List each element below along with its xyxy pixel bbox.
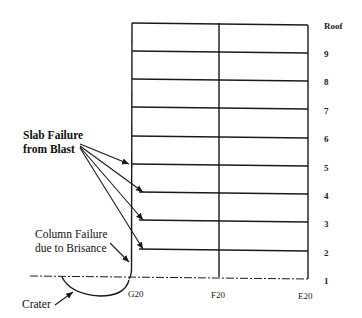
slab-3 — [139, 220, 308, 222]
floor-label-7: 7 — [324, 106, 329, 116]
slab-4 — [139, 192, 308, 194]
slab-failure-label: Slab Failure from Blast — [23, 128, 83, 156]
crater-arrow — [55, 292, 73, 305]
crater-label: Crater — [22, 297, 51, 311]
slab-9 — [132, 51, 308, 53]
column-label-g20: G20 — [128, 289, 144, 299]
column-failure-line2: due to Brisance — [35, 241, 108, 255]
column-failure-arrow — [110, 243, 129, 262]
slab-failure-line2: from Blast — [23, 142, 83, 156]
column-g20-failed-end — [129, 270, 132, 279]
column-label-e20: E20 — [298, 291, 313, 301]
slab-8 — [132, 79, 308, 81]
floor-label-2: 2 — [324, 248, 329, 258]
slab-5 — [132, 164, 308, 166]
column-g20-line — [132, 23, 133, 270]
slab-failure-line1: Slab Failure — [23, 128, 83, 142]
floor-label-4: 4 — [324, 191, 329, 201]
floor-label-1: 1 — [324, 276, 329, 286]
column-label-f20: F20 — [211, 290, 225, 300]
column-failure-line1: Column Failure — [35, 227, 108, 241]
slab-7 — [132, 107, 308, 109]
floor-slabs — [132, 23, 308, 251]
floor-label-8: 8 — [324, 77, 329, 87]
floor-label-9: 9 — [324, 49, 329, 59]
ground-line — [30, 276, 308, 279]
slab-2 — [139, 249, 308, 251]
floor-label-5: 5 — [324, 163, 329, 173]
slab-roof — [132, 23, 308, 25]
slab-6 — [132, 136, 308, 138]
crater-text: Crater — [22, 298, 51, 310]
floor-label-roof: Roof — [324, 21, 343, 31]
column-failure-label: Column Failure due to Brisance — [35, 227, 108, 255]
floor-label-3: 3 — [324, 219, 329, 229]
floor-label-6: 6 — [324, 134, 329, 144]
frame-columns — [129, 23, 308, 279]
building-elevation-diagram — [0, 0, 362, 318]
